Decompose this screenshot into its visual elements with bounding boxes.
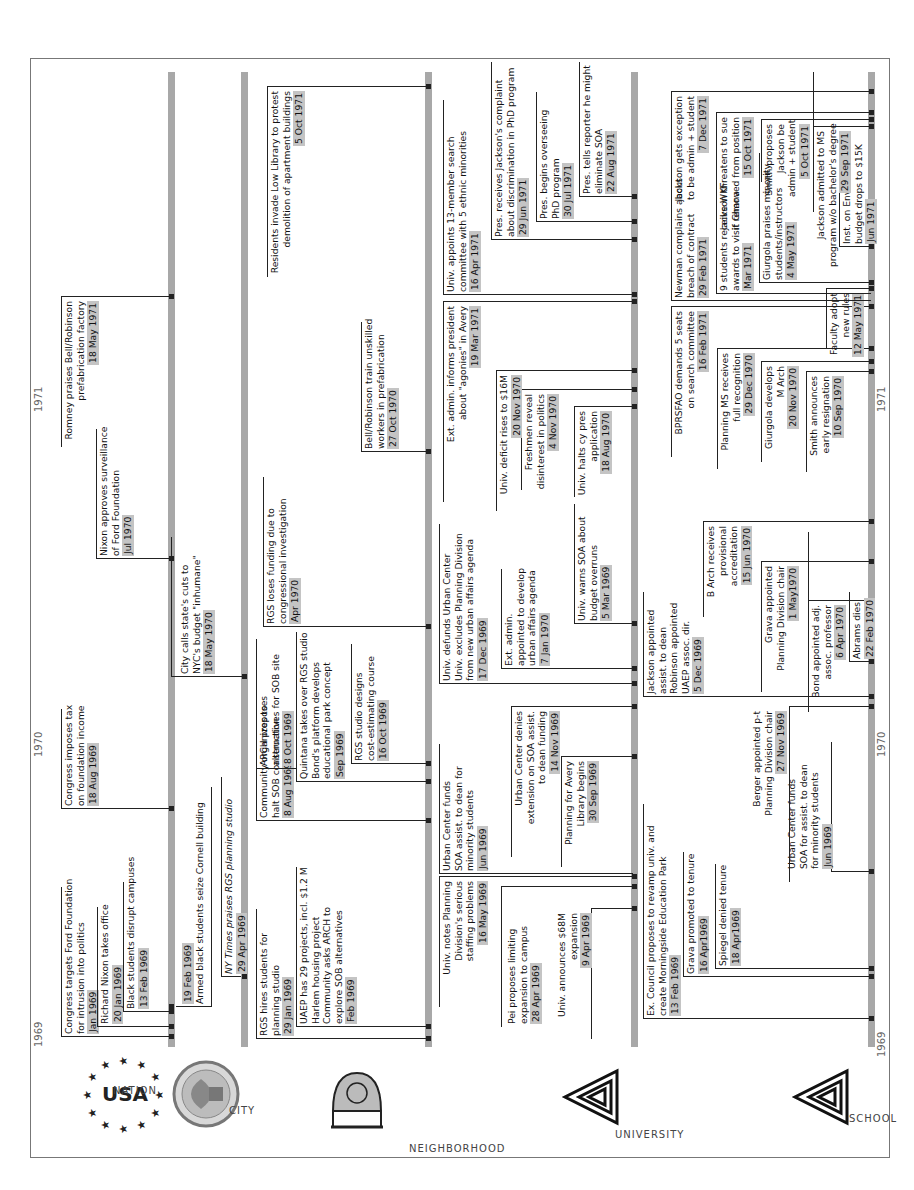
connector [849, 592, 850, 662]
year-label-1971-top: 1971 [33, 387, 44, 412]
tick [169, 806, 174, 811]
connector [716, 113, 717, 237]
connector [761, 120, 762, 182]
event-pres-tells-reporter: Pres. tells reporter he mighteliminate S… [581, 65, 617, 194]
connector [561, 757, 562, 867]
connector [759, 153, 760, 283]
event-bond-appointed: Bond appointed adj.assoc. professor6 Apr… [810, 605, 846, 707]
connector [439, 683, 633, 684]
connector [491, 62, 492, 240]
event-nixon-takes-office: Richard Nixon takes office20 Jan 1969 [99, 904, 123, 1024]
connector [176, 1006, 211, 1007]
event-jackson-threatens: Jackson threatens to sueif removed from … [718, 117, 754, 242]
event-jackson-exception: Jackson gets exceptionto be admin + stud… [673, 96, 709, 211]
tick [632, 704, 637, 709]
tick [869, 1016, 874, 1021]
neighborhood-arch-logo [327, 1061, 387, 1131]
connector [826, 288, 871, 289]
connector [263, 626, 426, 627]
connector [536, 221, 633, 222]
event-bell-robinson-train: Bell/Robinson train unskilledworkers in … [363, 319, 399, 449]
svg-text:★: ★ [135, 1120, 148, 1130]
connector [643, 1018, 871, 1019]
connector [61, 808, 171, 809]
tick [869, 966, 874, 971]
event-nixon-surveillance: Nixon approves surveillanceof Ford Found… [98, 426, 134, 556]
event-univ-halts-cypres: Univ. halts cy presapplication18 Aug 197… [576, 411, 612, 501]
connector [813, 72, 814, 212]
lane-label-school: SCHOOL [849, 1113, 897, 1124]
connector [717, 349, 718, 469]
tick [426, 761, 431, 766]
connector [716, 112, 871, 113]
svg-text:★: ★ [99, 1060, 112, 1070]
tick [632, 404, 637, 409]
event-univ-notes-planning: Univ. notes PlanningDivision's seriousst… [441, 881, 488, 1007]
rotated-canvas: 1969 1970 1971 1969 1970 1971 ★ ★ ★ ★ ★ … [30, 58, 890, 1158]
connector [715, 864, 716, 969]
tick [632, 906, 637, 911]
connector [97, 1026, 171, 1027]
connector [443, 302, 444, 502]
tick [869, 974, 874, 979]
connector [96, 558, 171, 559]
event-univ-deficit: Univ. deficit rises to $16M20 Nov 1970 [498, 375, 522, 511]
connector [716, 293, 871, 294]
connector [561, 756, 633, 757]
svg-text:★: ★ [135, 1060, 148, 1070]
connector [511, 706, 633, 707]
connector [683, 976, 871, 977]
event-faculty-adopt-rules: Faculty adoptnew rules12 May 1971 [828, 293, 864, 357]
tick [426, 84, 431, 89]
tick [869, 110, 874, 115]
connector [296, 867, 297, 1027]
year-label-1969-top: 1969 [33, 1022, 44, 1047]
tick [426, 449, 431, 454]
event-univ-announces-68m: Univ. announces $68Mexpansion9 Apr 1969 [556, 913, 592, 1039]
svg-text:★: ★ [99, 1120, 112, 1130]
connector [761, 119, 871, 120]
tick [869, 346, 874, 351]
connector [221, 777, 222, 977]
event-barch-provisional: B Arch receivesprovisionalaccreditation1… [705, 526, 752, 617]
tick [169, 1034, 174, 1039]
event-jackson-admitted-ms: Jackson admitted to MSprogram w/o bachel… [815, 131, 851, 267]
event-black-students-disrupt: Black students disrupt campuses13 Feb 19… [125, 857, 149, 1009]
connector [759, 282, 871, 283]
tick [869, 304, 874, 309]
tick [242, 674, 247, 679]
school-triangle-logo [791, 1067, 851, 1127]
svg-text:★: ★ [117, 1124, 130, 1134]
connector [443, 100, 444, 295]
svg-text:★: ★ [86, 1072, 99, 1082]
svg-text:★: ★ [117, 1056, 130, 1066]
tick [869, 369, 874, 374]
event-urban-center-funds: Urban Center fundsSOA assist. to dean fo… [441, 766, 488, 871]
nyc-seal-logo [171, 1059, 241, 1129]
event-ext-admin-informs: Ext. admin. informs presidentabout "agon… [445, 306, 481, 502]
tick [869, 519, 874, 524]
connector [683, 852, 684, 977]
connector [61, 887, 62, 1037]
event-uaep-29-projects: UAEP has 29 projects, incl. $1.2 MHarlem… [298, 867, 357, 1024]
connector [443, 294, 633, 295]
tick [426, 1024, 431, 1029]
tick [869, 359, 874, 364]
connector [574, 407, 575, 497]
connector [267, 86, 426, 87]
connector [761, 562, 762, 692]
tick [632, 219, 637, 224]
connector [439, 876, 633, 877]
connector [221, 976, 241, 977]
event-rgs-studio-designs: RGS studio designscost-estimating course… [353, 656, 389, 761]
event-smith-proposes-jackson: Smith proposesJackson beadmin + student5… [763, 124, 810, 197]
connector [501, 887, 502, 1027]
connector [351, 644, 352, 764]
connector [761, 361, 871, 362]
event-romney-praises: Romney praises Bell/Robinsonprefabricati… [63, 301, 99, 445]
connector [256, 768, 296, 769]
connector [267, 87, 268, 277]
connector [501, 569, 502, 669]
event-pres-begins-overseeing: Pres. begins overseeingPhD program30 Jul… [538, 110, 574, 219]
event-spiegel-denied: Spiegel denied tenure18 Apr1969 [717, 865, 741, 966]
